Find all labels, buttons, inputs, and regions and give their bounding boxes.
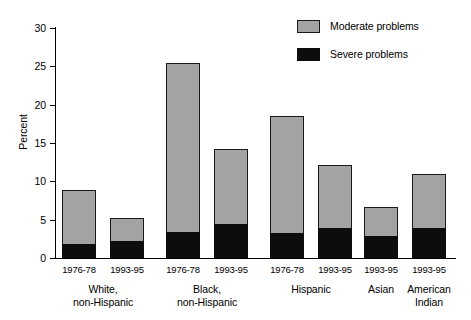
y-axis-tick-label: 10 bbox=[6, 176, 46, 187]
x-axis-period-label: 1993-95 bbox=[399, 264, 459, 275]
bar-stack bbox=[166, 63, 200, 259]
bar-stack bbox=[214, 149, 248, 258]
y-axis-tick bbox=[50, 258, 56, 259]
bar-chart: Percent 051015202530 1976-781993-951976-… bbox=[0, 0, 471, 320]
x-axis-line bbox=[55, 258, 456, 259]
x-axis-group-label-line: non-Hispanic bbox=[53, 296, 153, 309]
bar-stack bbox=[364, 207, 398, 258]
x-axis-group-label-line: Indian bbox=[379, 296, 471, 309]
bar-segment-severe bbox=[62, 244, 96, 258]
bar-segment-severe bbox=[412, 228, 446, 258]
bar-segment-moderate bbox=[166, 63, 200, 259]
bar-segment-severe bbox=[364, 236, 398, 258]
bar-segment-severe bbox=[166, 232, 200, 258]
y-axis-tick-label: 15 bbox=[6, 138, 46, 149]
y-axis-tick-label: 0 bbox=[6, 253, 46, 264]
bar-segment-severe bbox=[318, 228, 352, 258]
plot-area bbox=[56, 28, 456, 258]
bar-stack bbox=[412, 174, 446, 258]
bar-stack bbox=[62, 190, 96, 258]
x-axis-group-label-line: non-Hispanic bbox=[157, 296, 257, 309]
x-axis-group-label: AmericanIndian bbox=[379, 283, 471, 309]
x-axis-group-label-line: American bbox=[379, 283, 471, 296]
bar-segment-severe bbox=[270, 233, 304, 258]
legend-swatch-moderate-icon bbox=[297, 20, 320, 33]
y-axis-tick-label: 30 bbox=[6, 23, 46, 34]
x-axis-period-label: 1993-95 bbox=[201, 264, 261, 275]
legend-label-moderate: Moderate problems bbox=[330, 19, 419, 33]
x-axis-group-label-line: White, bbox=[53, 283, 153, 296]
legend-label-severe: Severe problems bbox=[330, 47, 408, 61]
y-axis-tick-label: 25 bbox=[6, 61, 46, 72]
x-axis-group-label: White,non-Hispanic bbox=[53, 283, 153, 309]
y-axis-tick-label: 20 bbox=[6, 100, 46, 111]
x-axis-group-label: Black,non-Hispanic bbox=[157, 283, 257, 309]
bar-stack bbox=[110, 218, 144, 258]
bar-stack bbox=[270, 116, 304, 258]
legend-swatch-severe-icon bbox=[297, 48, 320, 61]
x-axis-period-label: 1993-95 bbox=[97, 264, 157, 275]
y-axis-tick-label: 5 bbox=[6, 215, 46, 226]
x-axis-group-label-line: Black, bbox=[157, 283, 257, 296]
bar-stack bbox=[318, 165, 352, 258]
bar-segment-severe bbox=[110, 241, 144, 258]
bar-segment-severe bbox=[214, 224, 248, 258]
